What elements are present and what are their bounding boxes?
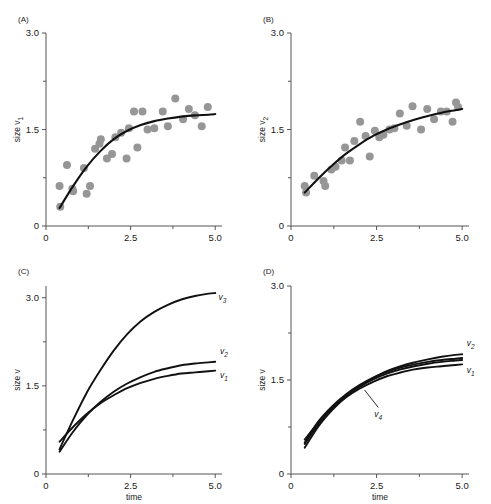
curve-label-v2: v2 bbox=[220, 346, 228, 358]
panel-d: 01.53.002.55.0(D)size vtimev2v1v4 bbox=[245, 252, 491, 504]
x-tick-label: 0 bbox=[288, 232, 293, 243]
panel-a: 01.53.002.55.0(A)size v1 bbox=[0, 0, 245, 252]
y-tick-label: 3.0 bbox=[26, 27, 39, 38]
panel-label: (C) bbox=[18, 267, 29, 276]
curve-fitted-v2 bbox=[305, 109, 462, 193]
panel-b: 01.53.002.55.0(B)size v2 bbox=[245, 0, 491, 252]
x-tick-label: 2.5 bbox=[370, 480, 383, 491]
y-tick-label: 3.0 bbox=[26, 292, 39, 303]
x-tick-label: 5.0 bbox=[209, 480, 222, 491]
curve-label-v4: v4 bbox=[374, 409, 382, 421]
curve-v4 bbox=[305, 358, 462, 443]
y-tick-label: 0 bbox=[279, 468, 284, 479]
x-axis-label: time bbox=[372, 492, 388, 502]
y-axis-label: size v bbox=[257, 368, 267, 390]
curve-v1 bbox=[60, 371, 216, 442]
x-tick-label: 0 bbox=[43, 232, 48, 243]
curve-label-v1: v1 bbox=[220, 370, 228, 382]
curve-v2 bbox=[60, 362, 216, 452]
panel-label: (D) bbox=[263, 267, 274, 276]
curve-label-v2: v2 bbox=[467, 338, 475, 350]
x-tick-label: 5.0 bbox=[456, 480, 469, 491]
x-tick-label: 0 bbox=[43, 480, 48, 491]
panel-d-plot: 01.53.002.55.0(D)size vtimev2v1v4 bbox=[245, 252, 491, 504]
scatter-points bbox=[56, 95, 212, 211]
y-tick-label: 1.5 bbox=[271, 374, 284, 385]
x-tick-label: 5.0 bbox=[456, 232, 469, 243]
x-tick-label: 2.5 bbox=[124, 480, 137, 491]
x-tick-label: 2.5 bbox=[124, 232, 137, 243]
x-tick-label: 0 bbox=[288, 480, 293, 491]
x-tick-label: 2.5 bbox=[370, 232, 383, 243]
y-axis-label: size v1 bbox=[12, 116, 24, 142]
y-axis-label: size v bbox=[12, 368, 22, 390]
y-tick-label: 0 bbox=[279, 220, 284, 231]
curve-label-v1: v1 bbox=[467, 365, 475, 377]
panel-a-plot: 01.53.002.55.0(A)size v1 bbox=[0, 0, 245, 252]
x-axis-label: time bbox=[126, 492, 142, 502]
y-tick-label: 3.0 bbox=[271, 280, 284, 291]
y-tick-label: 1.5 bbox=[26, 380, 39, 391]
y-tick-label: 0 bbox=[34, 468, 39, 479]
panel-c-plot: 01.53.002.55.0(C)size vtimev3v2v1 bbox=[0, 252, 245, 504]
curve-v3 bbox=[60, 293, 216, 449]
y-tick-label: 0 bbox=[34, 220, 39, 231]
panel-c: 01.53.002.55.0(C)size vtimev3v2v1 bbox=[0, 252, 245, 504]
figure-grid: 01.53.002.55.0(A)size v1 01.53.002.55.0(… bbox=[0, 0, 491, 504]
x-tick-label: 5.0 bbox=[209, 232, 222, 243]
curve-label-v3: v3 bbox=[219, 292, 227, 304]
y-tick-label: 3.0 bbox=[271, 27, 284, 38]
panel-label: (A) bbox=[18, 15, 29, 24]
y-axis-label: size v2 bbox=[257, 116, 269, 142]
y-tick-label: 1.5 bbox=[271, 124, 284, 135]
panel-label: (B) bbox=[263, 15, 274, 24]
panel-b-plot: 01.53.002.55.0(B)size v2 bbox=[245, 0, 491, 252]
y-tick-label: 1.5 bbox=[26, 124, 39, 135]
curve-v2 bbox=[305, 354, 462, 447]
